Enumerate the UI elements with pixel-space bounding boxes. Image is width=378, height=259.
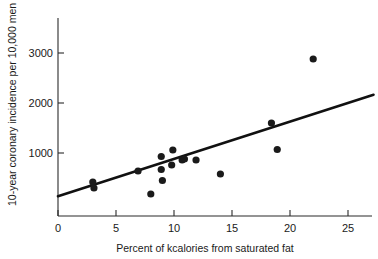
regression-line (58, 95, 374, 197)
x-tick-label-20: 20 (284, 222, 296, 234)
data-point (89, 178, 96, 185)
data-point (158, 153, 165, 160)
x-tick-label-25: 25 (342, 222, 354, 234)
plot-canvas: 10-year coronary incidence per 10,000 me… (0, 0, 378, 259)
data-point (274, 146, 281, 153)
data-point (159, 177, 166, 184)
x-tick-label-0: 0 (55, 222, 61, 234)
y-axis-ticks: 3000 2000 1000 (29, 47, 64, 159)
x-axis-ticks: 0 5 10 15 20 25 (55, 210, 354, 234)
data-point (147, 190, 154, 197)
y-tick-label-3000: 3000 (29, 47, 53, 59)
y-axis-title: 10-year coronary incidence per 10,000 me… (6, 3, 18, 206)
data-point (168, 161, 175, 168)
data-point (310, 55, 317, 62)
data-point (169, 146, 176, 153)
data-point (268, 119, 275, 126)
x-tick-label-5: 5 (113, 222, 119, 234)
y-tick-label-1000: 1000 (29, 147, 53, 159)
data-point (181, 155, 188, 162)
scatter-plot-figure: 10-year coronary incidence per 10,000 me… (0, 0, 378, 259)
y-tick-label-2000: 2000 (29, 97, 53, 109)
x-tick-label-10: 10 (168, 222, 180, 234)
data-point (217, 170, 224, 177)
x-tick-label-15: 15 (226, 222, 238, 234)
data-point (158, 166, 165, 173)
x-axis-title: Percent of kcalories from saturated fat (116, 242, 293, 254)
data-point (90, 184, 97, 191)
data-point (192, 156, 199, 163)
data-point (134, 167, 141, 174)
